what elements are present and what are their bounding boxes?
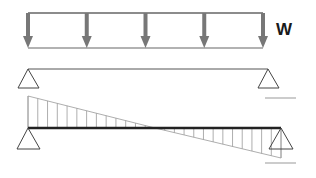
distributed-load — [23, 13, 268, 48]
beam-diagram — [0, 0, 316, 178]
load-arrow-icon — [82, 13, 92, 48]
shear-negative-region — [155, 128, 281, 158]
shear-positive-region — [28, 96, 155, 128]
load-label: W — [276, 20, 292, 40]
load-arrow-icon — [23, 13, 33, 48]
load-arrow-icon — [141, 13, 151, 48]
load-arrow-icon — [199, 13, 209, 48]
right-support-icon — [258, 69, 279, 88]
left-support-icon — [18, 69, 39, 88]
left-support-shear-icon — [17, 128, 40, 149]
load-arrow-icon — [258, 13, 268, 48]
